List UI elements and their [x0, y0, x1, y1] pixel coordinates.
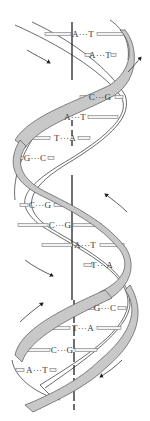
arrow-down-right-icon [25, 260, 53, 276]
ribbon-backbone [13, 30, 138, 412]
base-pair-label: G···C [94, 303, 117, 313]
arrow-up-left-icon [105, 194, 127, 212]
base-pair-label: A···T [74, 240, 96, 250]
base-pair-label: A···T [64, 112, 86, 122]
base-pair-label: T···A [54, 133, 76, 143]
arrow-up-right-icon [20, 303, 43, 322]
base-pair-label: A···T [89, 50, 111, 60]
arrow-down-right-icon [27, 50, 50, 63]
base-pair-label: C···G [49, 220, 72, 230]
dna-double-helix-diagram [0, 0, 150, 421]
base-pair-label: G···C [24, 153, 47, 163]
base-pair-label: C···G [29, 200, 52, 210]
base-pair-label: C···G [89, 92, 112, 102]
base-pair-label: A···T [72, 29, 94, 39]
base-pair-label: C···G [51, 345, 74, 355]
base-pair-label: T···A [91, 260, 113, 270]
base-pair-label: T···A [72, 323, 94, 333]
base-pair-label: A···T [26, 365, 48, 375]
